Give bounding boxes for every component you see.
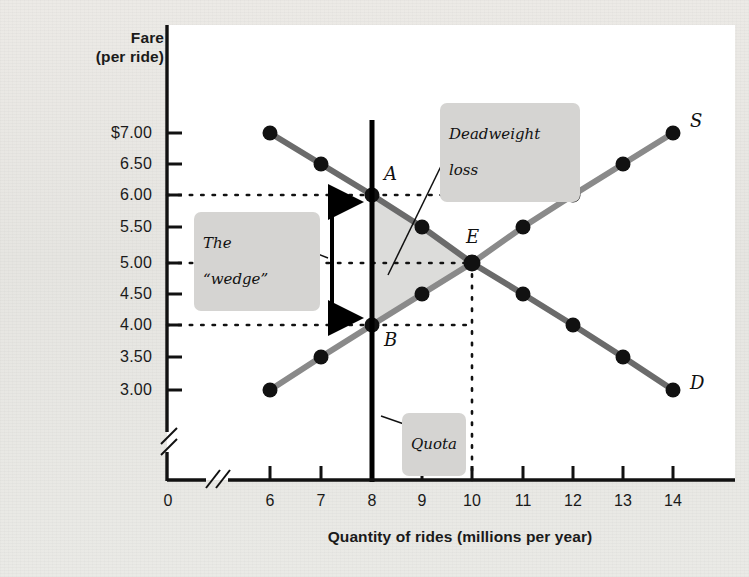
chart-svg — [0, 0, 749, 577]
demand-point-12 — [566, 318, 581, 333]
supply-point-14 — [666, 126, 681, 141]
y-axis-ticks — [167, 133, 182, 390]
demand-point-13 — [616, 350, 631, 365]
supply-point-11 — [516, 220, 531, 235]
point-label-a: A — [384, 163, 397, 184]
wedge-callout: The “wedge” — [194, 212, 320, 311]
demand-point-11 — [516, 287, 531, 302]
supply-point-13 — [616, 157, 631, 172]
quota-callout: Quota — [402, 413, 466, 476]
quota-deadweight-loss-chart: Fare (per ride) Quantity of rides (milli… — [0, 0, 749, 577]
quota-callout-line1: Quota — [411, 435, 457, 453]
supply-point-9 — [415, 287, 430, 302]
demand-point-6 — [263, 126, 278, 141]
quota-leader-line — [381, 416, 404, 424]
demand-point-7 — [314, 157, 329, 172]
demand-point-14 — [666, 383, 681, 398]
wedge-callout-line1: The — [203, 234, 311, 252]
supply-point-6 — [263, 383, 278, 398]
point-label-b: B — [384, 329, 397, 350]
x-axis-ticks — [270, 466, 673, 480]
point-label-e: E — [466, 226, 479, 247]
deadweight-loss-callout: Deadweight loss — [440, 103, 580, 202]
deadweight-loss-callout-line1: Deadweight — [449, 125, 571, 143]
deadweight-loss-region — [372, 195, 472, 325]
demand-curve-label: D — [690, 372, 704, 393]
supply-curve-label: S — [690, 110, 702, 131]
wedge-callout-line2: “wedge” — [203, 270, 311, 288]
deadweight-loss-callout-line2: loss — [449, 161, 571, 179]
equilibrium-point-marker — [464, 255, 481, 272]
demand-point-9 — [415, 220, 430, 235]
supply-point-7 — [314, 350, 329, 365]
